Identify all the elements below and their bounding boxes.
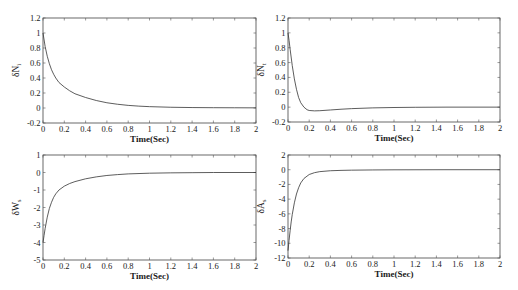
y-tick-label: 0.2 (275, 87, 286, 97)
x-tick-label: 1 (147, 124, 151, 134)
x-tick-label: 1.4 (187, 261, 198, 271)
y-tick-label: 0.4 (275, 72, 286, 82)
y-tick-label: 2 (281, 150, 285, 160)
axes-box-dNt (288, 18, 500, 122)
x-tick-label: 1.6 (208, 261, 219, 271)
x-tick-label: 1.6 (208, 124, 219, 134)
x-tick-label: 2 (498, 123, 502, 133)
x-tick-label: 1 (392, 259, 396, 269)
y-tick-label: 0.8 (275, 43, 286, 53)
y-tick-label: 0.4 (30, 73, 41, 83)
y-tick-label: 0.6 (275, 58, 286, 68)
xlabel-dAs: Time(Sec) (375, 269, 414, 279)
x-tick-label: 1.6 (452, 123, 463, 133)
x-tick-label: 0 (41, 261, 45, 271)
x-tick-label: 1.4 (187, 124, 198, 134)
y-tick-label: -4 (278, 194, 286, 204)
x-tick-label: 1 (147, 261, 151, 271)
x-tick-label: 2 (498, 259, 502, 269)
x-tick-label: 2 (254, 124, 258, 134)
y-tick-label: 1.2 (30, 13, 41, 23)
axes-box-dNi (43, 18, 256, 123)
x-tick-label: 1.8 (229, 261, 240, 271)
y-tick-label: 0.2 (30, 88, 41, 98)
subplot-dAs: 00.20.40.60.811.21.41.61.82-12-10-8-6-4-… (256, 150, 502, 279)
figure: 00.20.40.60.811.21.41.61.82-0.200.20.40.… (0, 0, 518, 290)
x-tick-label: 0.8 (123, 124, 134, 134)
y-tick-label: 1 (36, 150, 40, 160)
x-tick-label: 0.4 (80, 124, 91, 134)
ylabel-dNi: δNi (11, 64, 22, 77)
x-tick-label: 0.6 (102, 124, 113, 134)
ylabel-dAs: δAs (256, 199, 267, 213)
y-tick-label: -0.2 (27, 118, 40, 128)
y-tick-label: -12 (274, 253, 285, 263)
y-tick-label: -8 (278, 224, 285, 234)
y-tick-label: -2 (33, 203, 40, 213)
subplot-dWs: 00.20.40.60.811.21.41.61.82-5-4-3-2-101T… (11, 150, 258, 281)
y-tick-label: 1 (281, 28, 285, 38)
axes-box-dWs (43, 155, 256, 260)
y-tick-label: -10 (274, 238, 285, 248)
x-tick-label: 0.2 (304, 259, 315, 269)
y-tick-label: -0.2 (272, 117, 285, 127)
xlabel-dWs: Time(Sec) (130, 271, 169, 281)
y-tick-label: -6 (278, 209, 285, 219)
x-tick-label: 1.4 (431, 123, 442, 133)
y-tick-label: -1 (33, 185, 40, 195)
x-tick-label: 0.4 (325, 259, 336, 269)
subplot-dNi: 00.20.40.60.811.21.41.61.82-0.200.20.40.… (11, 13, 258, 144)
ylabel-dNt: δNt (256, 63, 267, 76)
x-tick-label: 0.8 (367, 259, 378, 269)
xlabel-dNi: Time(Sec) (130, 134, 169, 144)
subplot-dNt: 00.20.40.60.811.21.41.61.82-0.200.20.40.… (256, 13, 502, 143)
x-tick-label: 1.4 (431, 259, 442, 269)
x-tick-label: 0 (286, 259, 290, 269)
x-tick-label: 0 (41, 124, 45, 134)
x-tick-label: 0.8 (123, 261, 134, 271)
x-tick-label: 1.8 (473, 123, 484, 133)
y-tick-label: -5 (33, 255, 40, 265)
y-tick-label: -3 (33, 220, 40, 230)
x-tick-label: 0.4 (325, 123, 336, 133)
x-tick-label: 0 (286, 123, 290, 133)
x-tick-label: 1 (392, 123, 396, 133)
x-tick-label: 0.8 (367, 123, 378, 133)
x-tick-label: 0.2 (59, 124, 70, 134)
x-tick-label: 1.8 (473, 259, 484, 269)
x-tick-label: 0.6 (102, 261, 113, 271)
axes-box-dAs (288, 155, 500, 258)
y-tick-label: 0 (36, 168, 40, 178)
x-tick-label: 1.2 (410, 259, 421, 269)
x-tick-label: 1.2 (165, 124, 176, 134)
y-tick-label: 0 (281, 102, 285, 112)
x-tick-label: 0.2 (59, 261, 70, 271)
y-tick-label: 0.8 (30, 43, 41, 53)
x-tick-label: 1.2 (165, 261, 176, 271)
x-tick-label: 0.6 (346, 259, 357, 269)
y-tick-label: 0 (281, 165, 285, 175)
y-tick-label: 1 (36, 28, 40, 38)
x-tick-label: 2 (254, 261, 258, 271)
y-tick-label: 0.6 (30, 58, 41, 68)
x-tick-label: 1.8 (229, 124, 240, 134)
y-tick-label: -4 (33, 238, 41, 248)
y-tick-label: 1.2 (275, 13, 286, 23)
ylabel-dWs: δWs (11, 199, 22, 215)
y-tick-label: 0 (36, 103, 40, 113)
y-tick-label: -2 (278, 179, 285, 189)
xlabel-dNt: Time(Sec) (375, 133, 414, 143)
x-tick-label: 1.6 (452, 259, 463, 269)
x-tick-label: 0.2 (304, 123, 315, 133)
x-tick-label: 1.2 (410, 123, 421, 133)
x-tick-label: 0.6 (346, 123, 357, 133)
x-tick-label: 0.4 (80, 261, 91, 271)
